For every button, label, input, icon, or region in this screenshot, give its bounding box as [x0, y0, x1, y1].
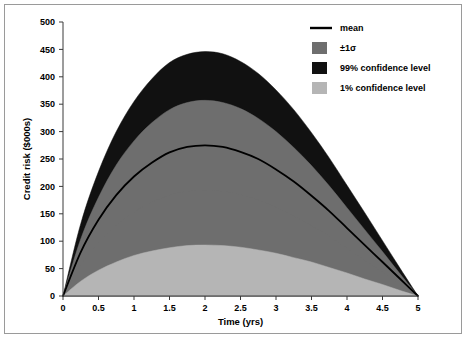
x-tick-label: 1.5 — [163, 303, 176, 313]
legend-color-swatch — [312, 82, 327, 94]
x-tick-label: 2 — [202, 303, 207, 313]
y-tick-label: 350 — [40, 99, 55, 109]
x-tick-label: 5 — [415, 303, 420, 313]
chart-canvas: 05010015020025030035040045050000.511.522… — [0, 0, 466, 338]
chart-legend[interactable]: mean±1σ99% confidence level1% confidence… — [310, 23, 431, 94]
y-tick-label: 400 — [40, 72, 55, 82]
y-tick-label: 100 — [40, 236, 55, 246]
legend-item[interactable]: 99% confidence level — [312, 62, 431, 74]
x-tick-label: 2.5 — [234, 303, 247, 313]
legend-label: 1% confidence level — [340, 83, 426, 93]
x-tick-label: 1 — [131, 303, 136, 313]
legend-item[interactable]: ±1σ — [312, 42, 356, 54]
y-tick-label: 200 — [40, 182, 55, 192]
x-tick-label: 3 — [273, 303, 278, 313]
credit-risk-chart-figure: 05010015020025030035040045050000.511.522… — [0, 0, 466, 338]
y-tick-label: 0 — [50, 291, 55, 301]
x-tick-label: 4 — [344, 303, 349, 313]
x-tick-label: 3.5 — [305, 303, 318, 313]
x-axis-title: Time (yrs) — [218, 316, 263, 327]
legend-label: ±1σ — [340, 43, 356, 53]
legend-color-swatch — [312, 42, 327, 54]
legend-label: 99% confidence level — [340, 63, 431, 73]
y-tick-label: 450 — [40, 45, 55, 55]
y-tick-label: 300 — [40, 127, 55, 137]
legend-item[interactable]: mean — [310, 23, 364, 33]
legend-item[interactable]: 1% confidence level — [312, 82, 426, 94]
y-tick-label: 500 — [40, 17, 55, 27]
x-tick-label: 0 — [60, 303, 65, 313]
y-axis-title: Credit risk ($000s) — [21, 118, 32, 200]
y-tick-label: 250 — [40, 154, 55, 164]
y-tick-label: 150 — [40, 209, 55, 219]
legend-color-swatch — [312, 62, 327, 74]
y-tick-label: 50 — [45, 264, 55, 274]
x-tick-label: 4.5 — [376, 303, 389, 313]
x-tick-label: 0.5 — [92, 303, 105, 313]
legend-label: mean — [340, 23, 364, 33]
